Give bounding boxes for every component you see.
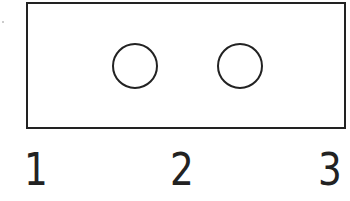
circle-hole-left [112, 43, 158, 89]
label-2: 2 [170, 146, 194, 194]
circle-hole-right [217, 43, 263, 89]
stray-mark [2, 21, 4, 23]
label-3: 3 [318, 146, 342, 194]
rectangle-frame [26, 2, 346, 129]
label-1: 1 [24, 146, 48, 194]
